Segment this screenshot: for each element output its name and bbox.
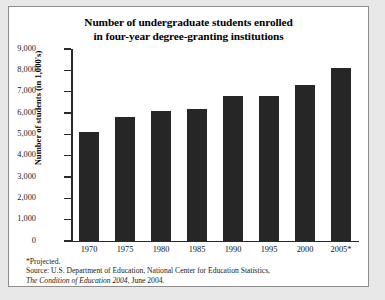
y-tick-mark — [64, 219, 71, 221]
y-tick-mark — [64, 198, 71, 200]
footnote-publication: The Condition of Education 2004, June 20… — [26, 276, 270, 285]
y-tick-mark — [64, 240, 71, 242]
y-tick-label: 7,000 — [0, 86, 36, 95]
footnote-publication-title: The Condition of Education 2004 — [26, 276, 128, 285]
footnote-publication-date: , June 2004. — [128, 276, 165, 285]
y-tick-label: 3,000 — [0, 172, 36, 181]
y-tick-label: 4,000 — [0, 150, 36, 159]
bar — [115, 117, 135, 241]
y-tick-mark — [64, 112, 71, 114]
footnotes: *Projected. Source: U.S. Department of E… — [26, 257, 270, 285]
y-tick-label: 0 — [0, 236, 36, 245]
y-tick-mark — [64, 176, 71, 178]
y-tick-label: 5,000 — [0, 129, 36, 138]
bar — [223, 96, 243, 241]
bar — [331, 68, 351, 241]
bar — [187, 109, 207, 241]
chart-title: Number of undergraduate students enrolle… — [9, 16, 368, 43]
chart-title-line-1: Number of undergraduate students enrolle… — [9, 16, 368, 30]
plot-area — [71, 49, 359, 241]
y-tick-label: 6,000 — [0, 108, 36, 117]
bar — [79, 132, 99, 241]
y-tick-mark — [64, 155, 71, 157]
y-tick-label: 9,000 — [0, 44, 36, 53]
bar — [259, 96, 279, 241]
footnote-projected: *Projected. — [26, 257, 270, 266]
y-tick-label: 1,000 — [0, 214, 36, 223]
y-tick-label: 2,000 — [0, 193, 36, 202]
chart-title-line-2: in four-year degree-granting institution… — [9, 30, 368, 44]
y-tick-label: 8,000 — [0, 65, 36, 74]
y-tick-mark — [64, 91, 71, 93]
y-tick-mark — [64, 134, 71, 136]
y-tick-mark — [64, 70, 71, 72]
y-tick-mark — [64, 48, 71, 50]
bar — [151, 111, 171, 241]
bar — [295, 85, 315, 241]
footnote-source: Source: U.S. Department of Education, Na… — [26, 266, 270, 275]
x-axis-label: 2005* — [317, 245, 365, 254]
chart-figure: Number of undergraduate students enrolle… — [8, 6, 369, 287]
